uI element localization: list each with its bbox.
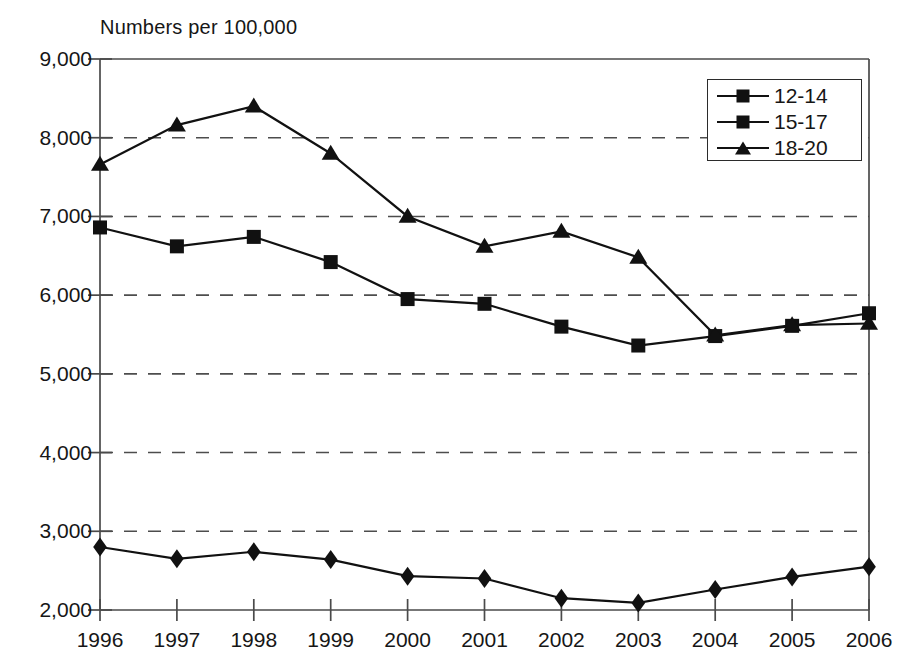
legend-item-18-20: 18-20 — [708, 134, 861, 161]
chart-figure: Numbers per 100,000 9,0008,0007,0006,000… — [0, 0, 914, 665]
square-marker-icon — [714, 109, 772, 135]
triangle-marker-icon — [714, 135, 772, 161]
legend-label-15-17: 15-17 — [774, 111, 828, 132]
chart-legend: 12-14 15-17 18-20 — [707, 79, 862, 161]
diamond-marker-icon — [714, 83, 772, 109]
legend-item-15-17: 15-17 — [708, 108, 861, 135]
legend-label-12-14: 12-14 — [774, 85, 828, 106]
legend-item-12-14: 12-14 — [708, 82, 861, 109]
legend-label-18-20: 18-20 — [774, 137, 828, 158]
x-tick-label-2006: 2006 — [824, 629, 914, 650]
